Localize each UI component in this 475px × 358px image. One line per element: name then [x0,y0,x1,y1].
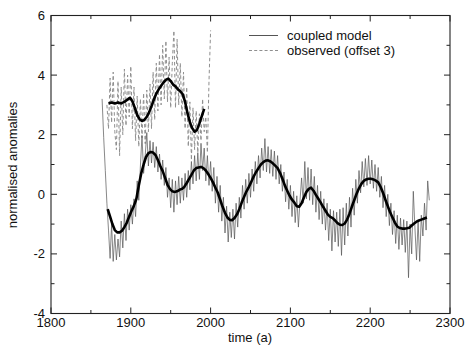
legend: coupled model observed (offset 3) [249,29,395,59]
svg-text:2100: 2100 [276,315,305,330]
legend-item-coupled-model: coupled model [249,29,395,42]
time-series-figure: 180019002000210022002300-4-20246 normali… [0,0,475,358]
svg-text:2300: 2300 [436,315,465,330]
svg-text:4: 4 [38,68,45,83]
legend-item-observed: observed (offset 3) [249,44,395,57]
legend-label-coupled-model: coupled model [287,29,372,42]
svg-text:2200: 2200 [356,315,385,330]
svg-text:2000: 2000 [196,315,225,330]
svg-text:0: 0 [38,187,45,202]
chart-canvas: 180019002000210022002300-4-20246 [0,0,475,358]
svg-text:2: 2 [38,127,45,142]
dashed-line-sample-icon [249,50,278,51]
svg-text:1900: 1900 [116,315,145,330]
svg-text:-4: -4 [33,306,45,321]
legend-label-observed: observed (offset 3) [287,44,395,57]
svg-text:6: 6 [38,8,45,23]
y-axis-label: normalised anomalies [5,102,20,228]
svg-text:-2: -2 [33,246,45,261]
x-axis-label: time (a) [228,330,272,345]
solid-line-sample-icon [249,35,278,36]
